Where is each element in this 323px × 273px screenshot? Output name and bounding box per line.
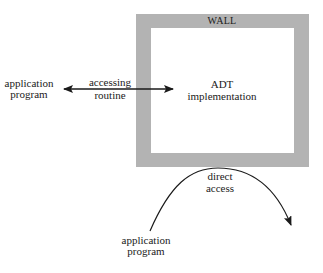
- diagram-svg: WALL ADT implementation application prog…: [0, 0, 323, 273]
- bottom-program-line2: program: [127, 245, 165, 257]
- direct-line1: direct: [207, 170, 232, 182]
- left-application-program-label: application program: [5, 77, 54, 100]
- accessing-line1: accessing: [89, 76, 132, 88]
- left-program-line2: program: [10, 88, 48, 100]
- accessing-line2: routine: [94, 89, 125, 101]
- bottom-application-program-label: application program: [122, 234, 171, 257]
- accessing-routine-label: accessing routine: [89, 76, 132, 101]
- wall-diagram: WALL ADT implementation application prog…: [0, 0, 323, 273]
- adt-line1: ADT: [211, 78, 234, 90]
- adt-line2: implementation: [187, 90, 257, 102]
- wall-label: WALL: [208, 15, 237, 26]
- direct-access-label: direct access: [206, 170, 234, 194]
- direct-line2: access: [206, 182, 234, 194]
